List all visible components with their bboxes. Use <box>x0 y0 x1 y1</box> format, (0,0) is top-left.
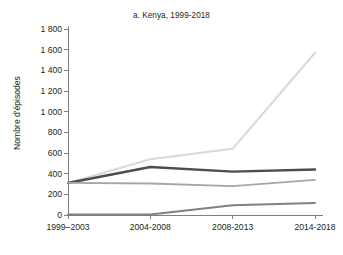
x-tick-label: 2004-2008 <box>130 222 171 233</box>
x-tick-label: 2014-2018 <box>294 222 335 233</box>
x-tick-label: 2008-2013 <box>212 222 253 233</box>
plot-area <box>0 0 343 255</box>
chart-figure: a. Kenya, 1999-2018 Nombre d'épisodes 02… <box>0 0 343 255</box>
series-line-serie-3 <box>68 180 315 186</box>
axes <box>64 26 323 219</box>
x-axis-tick-labels: 1999–20032004-20082008-20132014-2018 <box>0 222 343 238</box>
data-series <box>68 53 315 215</box>
series-line-serie-1 <box>68 53 315 183</box>
series-line-serie-2 <box>68 167 315 183</box>
x-tick-label: 1999–2003 <box>46 222 89 233</box>
series-line-serie-4 <box>68 203 315 214</box>
